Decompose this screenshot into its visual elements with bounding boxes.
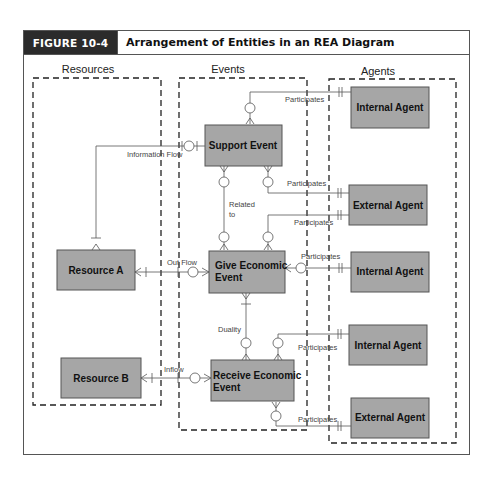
svg-text:Event: Event [215, 272, 243, 283]
label-out-flow: Out Flow [167, 258, 198, 267]
column-title-events: Events [211, 63, 245, 75]
entity-support-event[interactable]: Support Event [205, 125, 282, 166]
resources-group [33, 78, 161, 405]
label-related-to-1: Related [229, 200, 255, 209]
label-participates-6: Participates [298, 415, 337, 424]
column-title-resources: Resources [62, 63, 115, 75]
relationship-related-to: Related to [219, 166, 255, 250]
svg-text:Resource A: Resource A [68, 265, 123, 276]
entity-external-agent-1[interactable]: External Agent [349, 185, 427, 225]
label-information-flow: Information Flow [127, 150, 183, 159]
entity-internal-agent-2[interactable]: Internal Agent [351, 252, 429, 292]
relationship-participates-1: Participates [245, 87, 351, 124]
relationship-participates-4: Participates [285, 252, 351, 273]
svg-text:Internal Agent: Internal Agent [357, 102, 425, 113]
label-related-to-2: to [229, 210, 235, 219]
svg-text:Give Economic: Give Economic [215, 260, 288, 271]
label-participates-5: Participates [298, 343, 337, 352]
entity-resource-a[interactable]: Resource A [57, 250, 135, 290]
entity-external-agent-2[interactable]: External Agent [351, 398, 429, 438]
relationship-participates-2: Participates [263, 166, 349, 198]
svg-text:Support Event: Support Event [209, 140, 278, 151]
svg-text:External Agent: External Agent [353, 200, 424, 211]
relationship-participates-5: Participates [273, 329, 349, 360]
entity-receive-economic-event[interactable]: Receive Economic Event [211, 360, 302, 401]
relationship-participates-3: Participates [263, 210, 349, 250]
svg-text:Internal Agent: Internal Agent [357, 266, 425, 277]
svg-text:External Agent: External Agent [355, 412, 426, 423]
label-participates-1: Participates [285, 95, 324, 104]
label-participates-4: Participates [301, 252, 340, 261]
svg-text:Internal Agent: Internal Agent [355, 340, 423, 351]
svg-text:Resource B: Resource B [73, 373, 129, 384]
relationship-inflow: Inflow [141, 365, 211, 383]
label-participates-2: Participates [287, 179, 326, 188]
svg-text:Receive Economic: Receive Economic [213, 370, 302, 381]
entity-internal-agent-3[interactable]: Internal Agent [349, 325, 427, 365]
column-title-agents: Agents [361, 65, 396, 77]
label-inflow: Inflow [164, 365, 184, 374]
entity-give-economic-event[interactable]: Give Economic Event [209, 251, 288, 293]
label-duality: Duality [218, 325, 241, 334]
relationship-out-flow: Out Flow [135, 258, 209, 277]
label-participates-3: Participates [294, 218, 333, 227]
relationship-participates-6: Participates [271, 402, 351, 431]
svg-text:Event: Event [213, 382, 241, 393]
entity-resource-b[interactable]: Resource B [61, 358, 141, 398]
relationship-information-flow: Information Flow [91, 141, 205, 250]
rea-diagram: Resources Events Agents Information Flow… [0, 0, 493, 478]
entity-internal-agent-1[interactable]: Internal Agent [351, 87, 429, 128]
relationship-duality: Duality [218, 293, 251, 360]
